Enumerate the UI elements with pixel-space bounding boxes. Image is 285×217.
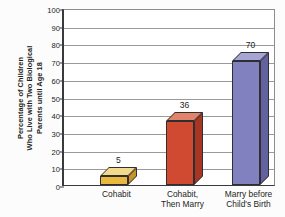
bar-side-face xyxy=(260,52,269,185)
y-axis-tick-label: 100 xyxy=(30,6,60,15)
y-axis-tick-label: 80 xyxy=(30,41,60,50)
y-axis-tick-mark xyxy=(60,63,64,64)
y-axis-tick-label: 50 xyxy=(30,94,60,103)
y-axis-tick-label: 20 xyxy=(30,147,60,156)
y-axis-tick-mark xyxy=(60,151,64,152)
y-axis-tick-mark xyxy=(60,27,64,28)
x-axis-category-label-line: Marry before xyxy=(225,189,272,199)
x-axis-category-label-line: Then Marry xyxy=(161,199,204,209)
bar xyxy=(232,52,269,185)
bar-value-label: 70 xyxy=(246,40,256,50)
gridline xyxy=(64,28,274,29)
bar-value-label: 5 xyxy=(116,155,121,165)
y-axis-tick-label: 0 xyxy=(30,183,60,192)
y-axis-tick-mark xyxy=(60,80,64,81)
y-axis-tick-mark xyxy=(60,45,64,46)
y-axis-tick-label: 90 xyxy=(30,23,60,32)
y-axis-tick-mark xyxy=(60,133,64,134)
x-axis-category-label-line: Cohabit xyxy=(102,189,131,199)
y-axis-title-line-1: Percentage of Children xyxy=(16,57,26,139)
bar-chart: Percentage of Children Who Live with Two… xyxy=(0,0,285,217)
y-axis-tick-label: 70 xyxy=(30,59,60,68)
y-axis-tick-label: 30 xyxy=(30,129,60,138)
bar xyxy=(166,112,203,185)
y-axis-tick-mark xyxy=(60,116,64,117)
x-axis-category-label-line: Cohabit, xyxy=(161,189,204,199)
bar-front-face xyxy=(100,176,128,185)
x-axis-category-label-line: Child's Birth xyxy=(225,199,272,209)
bar-front-face xyxy=(232,61,260,185)
plot-area: 1009080706050403020100 53670 xyxy=(62,9,275,186)
y-axis-tick-label: 10 xyxy=(30,165,60,174)
y-axis-tick-mark xyxy=(60,169,64,170)
bar xyxy=(100,167,137,185)
y-axis-tick-mark xyxy=(60,98,64,99)
bar-front-face xyxy=(166,121,194,185)
x-axis-category-label: Cohabit,Then Marry xyxy=(161,189,204,210)
y-axis-tick-label: 40 xyxy=(30,112,60,121)
gridline xyxy=(64,45,274,46)
y-axis-tick-mark xyxy=(60,187,64,188)
y-axis-tick-label: 60 xyxy=(30,76,60,85)
x-axis-category-label: Marry beforeChild's Birth xyxy=(225,189,272,210)
y-axis-tick-mark xyxy=(60,10,64,11)
bar-side-face xyxy=(194,112,203,185)
x-axis-category-label: Cohabit xyxy=(102,189,131,199)
bar-value-label: 36 xyxy=(180,100,190,110)
